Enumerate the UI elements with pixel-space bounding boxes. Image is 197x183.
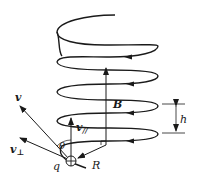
velocity-arrow: [20, 106, 70, 160]
helix-diagram: B R h v// v v⊥ θ q: [0, 0, 197, 183]
field-label: B: [112, 98, 122, 111]
pitch-label: h: [180, 113, 187, 126]
v-parallel-label: v//: [76, 121, 89, 135]
helix-path: [57, 15, 158, 168]
velocity-label: v: [15, 91, 22, 104]
radius-label: R: [91, 159, 100, 172]
radius-arrow: [78, 145, 106, 158]
v-perp-label: v⊥: [10, 143, 24, 157]
helix-direction-arrows: [124, 55, 134, 144]
theta-label: θ: [59, 140, 65, 151]
charge-label: q: [53, 160, 60, 173]
